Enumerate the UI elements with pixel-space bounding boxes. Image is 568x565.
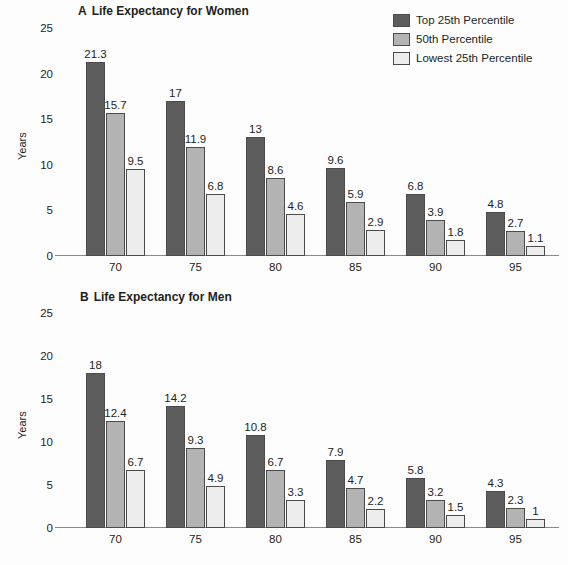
bar-value-label: 4.8 <box>488 198 504 210</box>
bar-b-90-50th-percentile[interactable] <box>426 500 445 528</box>
bar-group-b-95: 4.32.3195 <box>486 313 545 528</box>
x-axis-tick-a-80: 80 <box>269 261 282 273</box>
bar-b-95-lowest-25th-percentile[interactable] <box>526 519 545 528</box>
bar-value-label: 6.8 <box>408 180 424 192</box>
y-axis-tick-b-15: 15 <box>40 393 53 405</box>
bar-value-label: 6.7 <box>268 456 284 468</box>
bar-a-85-50th-percentile[interactable] <box>346 202 365 256</box>
bar-a-70-top-25th-percentile[interactable] <box>86 62 105 256</box>
bar-value-label: 4.9 <box>208 472 224 484</box>
bar-group-b-85: 7.94.72.285 <box>326 313 385 528</box>
bar-b-95-top-25th-percentile[interactable] <box>486 491 505 528</box>
x-axis-tick-a-95: 95 <box>509 261 522 273</box>
panel-a-y-axis-label: Years <box>16 132 28 160</box>
bar-a-70-lowest-25th-percentile[interactable] <box>126 169 145 256</box>
bar-b-80-50th-percentile[interactable] <box>266 470 285 528</box>
y-axis-tick-a-15: 15 <box>40 113 53 125</box>
bar-value-label: 9.3 <box>188 434 204 446</box>
panel-a-title-text: Life Expectancy for Women <box>92 4 249 18</box>
x-axis-tick-b-75: 75 <box>189 533 202 545</box>
panel-b: BLife Expectancy for Men Years Age, y 05… <box>0 288 568 565</box>
bar-a-80-50th-percentile[interactable] <box>266 178 285 256</box>
bar-b-70-lowest-25th-percentile[interactable] <box>126 470 145 528</box>
bar-a-80-lowest-25th-percentile[interactable] <box>286 214 305 256</box>
bar-a-95-top-25th-percentile[interactable] <box>486 212 505 256</box>
bar-value-label: 9.5 <box>128 155 144 167</box>
bar-value-label: 1 <box>532 505 538 517</box>
bar-b-75-lowest-25th-percentile[interactable] <box>206 486 225 528</box>
bar-group-a-90: 6.83.91.890 <box>406 28 465 256</box>
panel-a-plot-area: Years 051015202521.315.79.5701711.96.875… <box>62 28 559 256</box>
bar-value-label: 3.9 <box>428 206 444 218</box>
panel-b-title: BLife Expectancy for Men <box>80 290 232 304</box>
panel-b-plot-area: Years Age, y 05101520251812.46.77014.29.… <box>62 313 559 528</box>
bar-a-90-50th-percentile[interactable] <box>426 220 445 256</box>
bar-value-label: 21.3 <box>84 48 106 60</box>
bar-a-75-top-25th-percentile[interactable] <box>166 101 185 256</box>
bar-a-95-50th-percentile[interactable] <box>506 231 525 256</box>
bar-value-label: 6.8 <box>208 180 224 192</box>
bar-value-label: 2.3 <box>508 494 524 506</box>
bar-value-label: 5.9 <box>348 188 364 200</box>
bar-a-75-lowest-25th-percentile[interactable] <box>206 194 225 256</box>
bar-value-label: 1.1 <box>528 232 544 244</box>
bar-a-70-50th-percentile[interactable] <box>106 113 125 256</box>
bar-b-70-top-25th-percentile[interactable] <box>86 373 105 528</box>
x-axis-tick-b-85: 85 <box>349 533 362 545</box>
bar-b-85-50th-percentile[interactable] <box>346 488 365 528</box>
bar-b-80-top-25th-percentile[interactable] <box>246 435 265 528</box>
x-axis-tick-a-75: 75 <box>189 261 202 273</box>
bar-value-label: 3.3 <box>288 486 304 498</box>
bar-b-75-top-25th-percentile[interactable] <box>166 406 185 528</box>
bar-value-label: 6.7 <box>128 456 144 468</box>
panel-a-title: ALife Expectancy for Women <box>78 4 249 18</box>
panel-b-title-text: Life Expectancy for Men <box>94 290 232 304</box>
bar-value-label: 4.7 <box>348 474 364 486</box>
bar-b-90-lowest-25th-percentile[interactable] <box>446 515 465 528</box>
bar-value-label: 14.2 <box>164 392 186 404</box>
x-axis-tick-b-90: 90 <box>429 533 442 545</box>
bar-value-label: 2.9 <box>368 216 384 228</box>
y-axis-tick-b-0: 0 <box>47 522 53 534</box>
bar-value-label: 8.6 <box>268 164 284 176</box>
bar-a-90-lowest-25th-percentile[interactable] <box>446 240 465 256</box>
bar-value-label: 4.6 <box>288 200 304 212</box>
bar-b-95-50th-percentile[interactable] <box>506 508 525 528</box>
bar-b-75-50th-percentile[interactable] <box>186 448 205 528</box>
bar-b-85-top-25th-percentile[interactable] <box>326 460 345 528</box>
bar-b-80-lowest-25th-percentile[interactable] <box>286 500 305 528</box>
y-axis-tick-a-5: 5 <box>47 204 53 216</box>
bar-b-70-50th-percentile[interactable] <box>106 421 125 528</box>
bar-value-label: 12.4 <box>104 407 126 419</box>
bar-a-85-lowest-25th-percentile[interactable] <box>366 230 385 256</box>
x-axis-tick-a-90: 90 <box>429 261 442 273</box>
bar-a-90-top-25th-percentile[interactable] <box>406 194 425 256</box>
bar-a-75-50th-percentile[interactable] <box>186 147 205 256</box>
y-axis-tick-a-20: 20 <box>40 68 53 80</box>
bar-b-85-lowest-25th-percentile[interactable] <box>366 509 385 528</box>
bar-group-a-80: 138.64.680 <box>246 28 305 256</box>
panel-a: ALife Expectancy for Women Years 0510152… <box>0 0 568 280</box>
x-axis-tick-b-80: 80 <box>269 533 282 545</box>
panel-b-y-axis-label: Years <box>16 411 28 439</box>
y-axis-tick-b-25: 25 <box>40 307 53 319</box>
bar-a-80-top-25th-percentile[interactable] <box>246 137 265 256</box>
bar-value-label: 17 <box>169 87 182 99</box>
bar-value-label: 4.3 <box>488 477 504 489</box>
bar-group-b-90: 5.83.21.590 <box>406 313 465 528</box>
panel-a-letter: A <box>78 4 87 18</box>
bar-a-85-top-25th-percentile[interactable] <box>326 168 345 256</box>
x-axis-tick-b-95: 95 <box>509 533 522 545</box>
bar-value-label: 1.8 <box>448 226 464 238</box>
bar-group-a-95: 4.82.71.195 <box>486 28 545 256</box>
bar-b-90-top-25th-percentile[interactable] <box>406 478 425 528</box>
bar-value-label: 10.8 <box>244 421 266 433</box>
bar-value-label: 18 <box>89 359 102 371</box>
bar-group-b-75: 14.29.34.975 <box>166 313 225 528</box>
x-axis-tick-a-85: 85 <box>349 261 362 273</box>
bar-a-95-lowest-25th-percentile[interactable] <box>526 246 545 256</box>
bar-value-label: 5.8 <box>408 464 424 476</box>
bar-group-b-80: 10.86.73.380 <box>246 313 305 528</box>
y-axis-tick-b-20: 20 <box>40 350 53 362</box>
y-axis-tick-a-25: 25 <box>40 22 53 34</box>
